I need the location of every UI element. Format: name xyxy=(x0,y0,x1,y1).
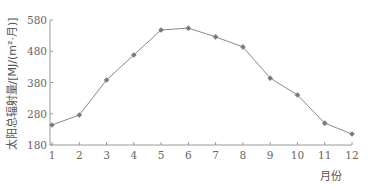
x-tick-label: 8 xyxy=(240,149,247,161)
data-point-marker xyxy=(186,25,192,31)
y-tick-label: 280 xyxy=(27,108,47,120)
data-point-marker xyxy=(349,131,355,137)
data-point-marker xyxy=(213,34,219,40)
y-tick-label: 180 xyxy=(27,139,47,151)
y-axis-title: 太阳总辐射量/[MJ/(m²·月)] xyxy=(5,18,19,151)
x-axis-title: 月份 xyxy=(320,170,342,183)
x-tick-label: 11 xyxy=(318,149,331,161)
x-tick-label: 10 xyxy=(291,149,304,161)
y-axis: 180280380480580 xyxy=(27,14,53,151)
x-tick-label: 12 xyxy=(345,149,358,161)
y-tick-label: 580 xyxy=(27,14,47,26)
x-axis: 123456789101112 xyxy=(49,142,359,161)
y-tick-label: 480 xyxy=(27,45,47,57)
y-tick-label: 380 xyxy=(27,77,47,89)
x-tick-label: 1 xyxy=(49,149,56,161)
line-chart: 180280380480580 123456789101112 太阳总辐射量/[… xyxy=(0,0,373,190)
x-tick-label: 2 xyxy=(76,149,83,161)
data-series xyxy=(49,25,355,137)
series-line xyxy=(52,28,352,134)
x-tick-label: 7 xyxy=(212,149,219,161)
x-tick-label: 3 xyxy=(103,149,110,161)
x-tick-label: 6 xyxy=(185,149,192,161)
x-tick-label: 4 xyxy=(130,149,137,161)
x-tick-label: 9 xyxy=(267,149,274,161)
x-tick-label: 5 xyxy=(158,149,165,161)
